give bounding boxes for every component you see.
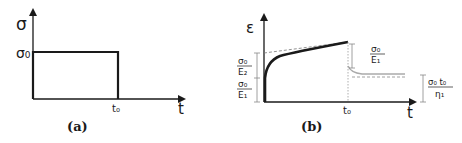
stress-pulse	[33, 52, 118, 99]
panel-b-strain-response: ε t₀ t (b) σ₀ E₂ σ₀ E₁ σ₀ E₁ σ₀ t₀ η₁	[237, 15, 453, 134]
fraction-num: σ₀	[238, 56, 248, 66]
fraction-num: σ₀	[238, 79, 248, 89]
sigma0-label: σ₀	[16, 45, 31, 61]
t0-label-b: t₀	[343, 105, 351, 116]
fraction-num: σ₀	[371, 44, 381, 54]
epsilon-axis-label: ε	[246, 19, 254, 37]
fraction-den: η₁	[435, 89, 445, 99]
label-sigma0-over-E1-recovery: σ₀ E₁	[370, 44, 385, 65]
caption-a: (a)	[67, 119, 88, 134]
label-permanent-strain: σ₀ t₀ η₁	[428, 77, 453, 99]
sigma-axis-label: σ	[16, 14, 27, 34]
fraction-num: σ₀ t₀	[428, 77, 447, 87]
fraction-den: E₂	[238, 67, 248, 77]
label-sigma0-over-E2: σ₀ E₂	[237, 56, 252, 77]
label-sigma0-over-E1-left: σ₀ E₁	[237, 79, 252, 100]
caption-b: (b)	[301, 119, 322, 134]
fraction-den: E₁	[371, 55, 381, 65]
t-axis-label-b: t	[407, 104, 413, 122]
fraction-den: E₁	[238, 90, 248, 100]
creep-curve	[265, 42, 348, 102]
recovery-curve	[348, 66, 405, 74]
panel-a-stress-input: σ σ₀ t₀ t (a)	[16, 10, 184, 134]
t-axis-label-a: t	[178, 100, 184, 118]
t0-label-a: t₀	[112, 103, 120, 114]
